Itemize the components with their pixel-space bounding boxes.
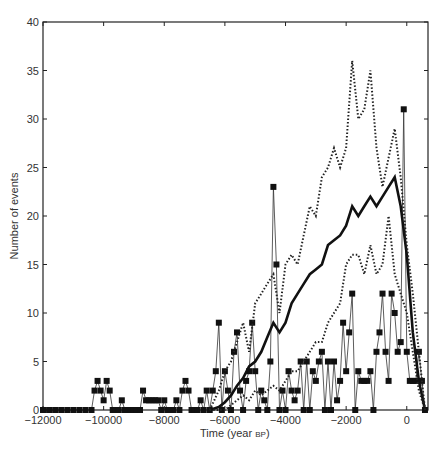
square-marker (116, 407, 122, 413)
square-marker (140, 388, 146, 394)
square-marker (101, 397, 107, 403)
square-marker (64, 407, 70, 413)
square-marker (158, 407, 164, 413)
square-marker (295, 388, 301, 394)
y-tick-label: 30 (27, 113, 39, 125)
square-marker (46, 407, 52, 413)
square-marker (389, 291, 395, 297)
square-marker (328, 407, 334, 413)
x-axis-title: Time (year BP) (200, 427, 270, 439)
square-marker (355, 368, 361, 374)
square-marker (337, 378, 343, 384)
square-marker (104, 378, 110, 384)
square-marker (52, 407, 58, 413)
square-marker (179, 388, 185, 394)
x-tick-label: −6000 (209, 414, 240, 426)
square-marker (95, 378, 101, 384)
x-axis-title-unit: BP (255, 430, 266, 439)
square-marker (170, 407, 176, 413)
square-marker (373, 349, 379, 355)
square-marker (316, 359, 322, 365)
x-tick-label: −8000 (149, 414, 180, 426)
square-marker (346, 329, 352, 335)
square-marker (331, 359, 337, 365)
square-marker (264, 407, 270, 413)
square-marker (92, 388, 98, 394)
square-marker (228, 407, 234, 413)
square-marker (276, 407, 282, 413)
square-marker (395, 349, 401, 355)
square-marker (349, 291, 355, 297)
y-tick-label: 35 (27, 65, 39, 77)
square-marker (89, 407, 95, 413)
square-marker (155, 397, 161, 403)
square-marker (213, 368, 219, 374)
square-marker (386, 378, 392, 384)
square-marker (186, 388, 192, 394)
square-marker (119, 397, 125, 403)
square-marker (76, 407, 82, 413)
square-marker (301, 407, 307, 413)
square-marker (380, 291, 386, 297)
square-marker (107, 388, 113, 394)
square-marker (261, 397, 267, 403)
square-marker (182, 378, 188, 384)
square-marker (58, 407, 64, 413)
square-marker (319, 349, 325, 355)
x-tick-label: −10000 (85, 414, 122, 426)
x-axis-title-main: Time (year (200, 427, 255, 439)
square-marker (195, 407, 201, 413)
square-marker (173, 397, 179, 403)
square-marker (161, 397, 167, 403)
square-marker (82, 407, 88, 413)
square-marker (343, 368, 349, 374)
square-marker (292, 397, 298, 403)
square-marker (398, 339, 404, 345)
x-tick-label: 0 (404, 414, 410, 426)
square-marker (307, 407, 313, 413)
chart: 0510152025303540 −12000−10000−8000−6000−… (0, 0, 442, 451)
square-marker (40, 407, 46, 413)
square-marker (283, 407, 289, 413)
square-marker (352, 407, 358, 413)
square-marker (216, 320, 222, 326)
square-marker (270, 184, 276, 190)
square-marker (255, 407, 261, 413)
square-marker (401, 106, 407, 112)
square-marker (210, 388, 216, 394)
square-marker (325, 359, 331, 365)
y-tick-label: 5 (33, 356, 39, 368)
x-tick-label: −12000 (24, 414, 61, 426)
square-marker (364, 378, 370, 384)
square-marker (240, 407, 246, 413)
square-marker (201, 407, 207, 413)
y-tick-label: 10 (27, 307, 39, 319)
square-marker (289, 388, 295, 394)
x-tick-label: −4000 (270, 414, 301, 426)
square-marker (367, 368, 373, 374)
square-marker (340, 320, 346, 326)
square-marker (310, 368, 316, 374)
y-tick-label: 20 (27, 210, 39, 222)
square-marker (376, 329, 382, 335)
square-marker (98, 388, 104, 394)
square-marker (273, 262, 279, 268)
y-axis-title: Number of events (8, 172, 20, 259)
square-marker (198, 397, 204, 403)
square-marker (322, 407, 328, 413)
square-marker (279, 388, 285, 394)
square-marker (176, 407, 182, 413)
square-marker (237, 388, 243, 394)
y-tick-label: 15 (27, 259, 39, 271)
square-marker (383, 349, 389, 355)
square-marker (252, 368, 258, 374)
y-tick-label: 40 (27, 16, 39, 28)
x-tick-label: −2000 (331, 414, 362, 426)
square-marker (370, 407, 376, 413)
square-marker (313, 378, 319, 384)
square-marker (267, 359, 273, 365)
square-marker (392, 310, 398, 316)
y-tick-label: 25 (27, 162, 39, 174)
square-marker (137, 407, 143, 413)
square-marker (404, 349, 410, 355)
